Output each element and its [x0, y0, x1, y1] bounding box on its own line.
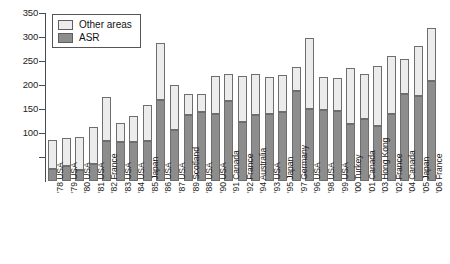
x-axis-tick-label: '00 Turkey: [354, 182, 363, 193]
bar-segment-other-areas: [265, 77, 274, 114]
x-axis-tick-label: '85 Japan: [151, 182, 160, 193]
bar-segment-other-areas: [387, 56, 396, 114]
bar-segment-other-areas: [292, 67, 301, 91]
bar-segment-other-areas: [238, 76, 247, 122]
x-axis-tick-label: '80 USA: [83, 182, 92, 193]
x-axis-tick-label: '87 USA: [178, 182, 187, 193]
bar-segment-other-areas: [278, 75, 287, 112]
bar-segment-other-areas: [89, 127, 98, 164]
x-axis-tick-label: '86 USA: [164, 182, 173, 193]
x-axis-tick-label: '03 Hong Kong: [381, 182, 390, 193]
bar-segment-other-areas: [333, 78, 342, 111]
x-axis-tick-label: '79 USA: [70, 182, 79, 193]
bar-segment-other-areas: [373, 66, 382, 126]
bar-segment-other-areas: [305, 38, 314, 109]
chart-legend: Other areas ASR: [52, 14, 141, 48]
bar-segment-other-areas: [143, 105, 152, 141]
legend-swatch-other-areas-icon: [58, 20, 73, 30]
bar-segment-other-areas: [184, 94, 193, 115]
x-axis-tick-label: '97 Germany: [300, 182, 309, 193]
x-axis-tick-label: '04 Canada: [408, 182, 417, 193]
x-axis-tick-label: '98 USA: [327, 182, 336, 193]
x-axis-tick-label: '99 USA: [341, 182, 350, 193]
bar-segment-other-areas: [400, 59, 409, 94]
bar-segment-other-areas: [197, 94, 206, 112]
legend-swatch-asr-icon: [58, 33, 73, 43]
x-axis-tick-label: '81 USA: [97, 182, 106, 193]
x-axis-tick-label: '92 France: [246, 182, 255, 193]
x-axis-tick-label: '96 USA: [313, 182, 322, 193]
y-axis-tick: [39, 157, 45, 158]
y-axis-tick-label: 150: [23, 104, 38, 114]
bar-segment-other-areas: [102, 97, 111, 142]
y-axis-labels: 100150200250300350: [0, 0, 38, 264]
x-axis-tick-label: '88 USA: [205, 182, 214, 193]
y-axis-tick-label: 200: [23, 80, 38, 90]
x-axis-tick-label: '95 Japan: [286, 182, 295, 193]
bar-segment-other-areas: [156, 43, 165, 101]
bar-segment-other-areas: [414, 46, 423, 95]
bar-segment-other-areas: [319, 77, 328, 111]
x-axis-tick-label: '83 USA: [124, 182, 133, 193]
x-axis-tick-label: '06 France: [435, 182, 444, 193]
x-axis-tick-label: '91 Canada: [232, 182, 241, 193]
y-axis-tick: [39, 133, 45, 134]
x-axis-tick-label: '05 Japan: [422, 182, 431, 193]
bar-segment-other-areas: [251, 74, 260, 116]
bar-segment-other-areas: [224, 74, 233, 101]
chart-container: 100150200250300350 '78 USA'79 USA'80 USA…: [0, 0, 450, 264]
legend-label-other-areas: Other areas: [79, 20, 132, 30]
bar-segment-other-areas: [116, 123, 125, 141]
x-axis-tick-label: '94 Australia: [259, 182, 268, 193]
y-axis-tick: [39, 61, 45, 62]
x-axis-tick-label: '02 France: [395, 182, 404, 193]
x-axis-tick-label: '01 Canada: [368, 182, 377, 193]
x-axis-tick-label: '90 USA: [219, 182, 228, 193]
bar-segment-other-areas: [129, 116, 138, 142]
legend-item-asr: ASR: [58, 31, 132, 44]
bar-segment-other-areas: [346, 68, 355, 125]
y-axis-tick-label: 350: [23, 8, 38, 18]
x-axis-tick-label: '93 USA: [273, 182, 282, 193]
x-axis-tick-label: '89 Scotland: [192, 182, 201, 193]
y-axis-tick-label: 300: [23, 32, 38, 42]
y-axis-tick: [39, 13, 45, 14]
legend-label-asr: ASR: [79, 33, 100, 43]
y-axis-tick-label: 250: [23, 56, 38, 66]
x-axis-tick-label: '82 France: [110, 182, 119, 193]
x-axis-tick-label: '78 USA: [56, 182, 65, 193]
legend-item-other-areas: Other areas: [58, 18, 132, 31]
y-axis-tick: [39, 85, 45, 86]
y-axis-tick-label: 100: [23, 128, 38, 138]
bar-segment-other-areas: [427, 28, 436, 81]
bar-segment-other-areas: [170, 85, 179, 129]
x-axis-labels: '78 USA'79 USA'80 USA'81 USA'82 France'8…: [46, 182, 445, 264]
y-axis-tick: [39, 109, 45, 110]
y-axis-tick: [39, 37, 45, 38]
bar-segment-other-areas: [360, 74, 369, 119]
bar-segment-other-areas: [211, 76, 220, 113]
x-axis-tick-label: '84 USA: [137, 182, 146, 193]
